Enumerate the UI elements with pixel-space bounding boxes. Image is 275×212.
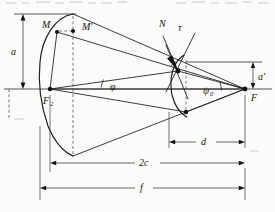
dimension-2c-label: 2c [139, 157, 149, 168]
dimension-a-prime-label: a′ [258, 71, 266, 82]
label-point-F2-letter: F [42, 95, 50, 106]
dimension-a-label: a [11, 46, 16, 57]
label-angle-psi: ψ 0 [203, 85, 214, 97]
label-tangent-tau: τ [178, 22, 182, 33]
ray-F-to-P [178, 71, 245, 89]
dimension-a: a [11, 14, 25, 89]
label-angle-psi-subscript: 0 [210, 90, 214, 97]
geometry-diagram-svg: a a′ d 2c [0, 0, 275, 212]
angle-arc-phi [101, 80, 104, 88]
ray-F-to-vertex-bottom [73, 89, 245, 156]
label-point-M-prime: M′ [81, 21, 93, 32]
label-point-F2: F 2 [42, 95, 54, 107]
figure-container: a a′ d 2c [0, 0, 275, 212]
dimension-2c: 2c [50, 95, 245, 172]
ray-F2-to-M [50, 32, 57, 89]
point-P-dot [176, 69, 181, 74]
ray-F-to-M [57, 32, 245, 89]
label-point-M: M [41, 19, 51, 30]
label-angle-phi: φ [110, 81, 116, 92]
dimension-a-prime: a′ [251, 62, 266, 89]
point-Q-dot [184, 110, 188, 114]
label-point-F2-subscript: 2 [50, 100, 54, 107]
point-Mprime-dot [71, 29, 75, 33]
point-F2-dot [48, 87, 52, 91]
label-angle-psi-letter: ψ [203, 85, 210, 96]
label-point-F: F [250, 92, 258, 103]
point-M-dot [55, 30, 59, 34]
dimension-d: d [169, 95, 245, 148]
point-F-dot [243, 87, 248, 92]
ray-F2-to-Q [50, 89, 186, 112]
label-normal-N: N [158, 18, 167, 29]
